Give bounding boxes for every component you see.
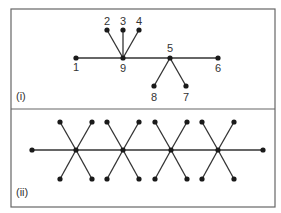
edge-h2-h2a — [107, 122, 123, 150]
node-1 — [73, 55, 78, 60]
node-7 — [183, 83, 188, 88]
panel-label: (ii) — [16, 186, 28, 198]
node-h2d — [136, 176, 141, 181]
edge-h2-h2d — [123, 150, 139, 179]
edge-5-7 — [170, 58, 186, 86]
node-4 — [136, 27, 141, 32]
node-h2 — [120, 147, 125, 152]
edge-h2-h2b — [123, 122, 139, 150]
node-2 — [104, 27, 109, 32]
node-label-1: 1 — [73, 61, 79, 73]
node-5 — [167, 55, 172, 60]
node-h1 — [73, 147, 78, 152]
panel-i-tree-graph: 123456789 (i) — [16, 15, 221, 103]
panel-label: (i) — [16, 90, 26, 102]
node-h2c — [104, 176, 109, 181]
edge-h3-h3b — [171, 122, 187, 150]
node-label-8: 8 — [151, 91, 157, 103]
edge-h1-h1b — [76, 122, 92, 150]
node-9 — [120, 55, 125, 60]
node-h3d — [184, 176, 189, 181]
node-L — [29, 147, 34, 152]
edge-h4-h4a — [202, 122, 218, 150]
node-labels: 123456789 — [73, 15, 221, 103]
node-h2b — [136, 119, 141, 124]
node-h1b — [89, 119, 94, 124]
edge-h4-h4d — [218, 150, 234, 179]
edge-h1-h1a — [60, 122, 76, 150]
figure-canvas: 123456789 (i) (ii) — [0, 0, 281, 213]
node-h3a — [152, 119, 157, 124]
node-label-6: 6 — [215, 62, 221, 74]
node-h4a — [199, 119, 204, 124]
edge-h2-h2c — [107, 150, 123, 179]
node-h1a — [57, 119, 62, 124]
edges — [76, 30, 218, 86]
edge-2-9 — [107, 30, 123, 58]
node-label-4: 4 — [136, 15, 142, 27]
node-h3 — [168, 147, 173, 152]
edge-h3-h3c — [155, 150, 171, 179]
edges — [32, 122, 263, 179]
node-h4b — [231, 119, 236, 124]
node-h1c — [57, 176, 62, 181]
node-R — [260, 147, 265, 152]
edge-h1-h1c — [60, 150, 76, 179]
edge-h1-h1d — [76, 150, 92, 179]
node-h2a — [104, 119, 109, 124]
node-label-2: 2 — [104, 15, 110, 27]
node-label-9: 9 — [120, 62, 126, 74]
node-label-7: 7 — [183, 91, 189, 103]
node-label-3: 3 — [120, 15, 126, 27]
node-label-5: 5 — [167, 42, 173, 54]
node-h3b — [184, 119, 189, 124]
edge-5-8 — [154, 58, 170, 86]
panel-ii-caterpillar-graph: (ii) — [16, 119, 266, 198]
edge-h3-h3a — [155, 122, 171, 150]
edge-h4-h4c — [202, 150, 218, 179]
node-6 — [215, 55, 220, 60]
node-3 — [120, 27, 125, 32]
node-8 — [151, 83, 156, 88]
graph-figure: 123456789 (i) (ii) — [0, 0, 281, 213]
node-h3c — [152, 176, 157, 181]
node-h4c — [199, 176, 204, 181]
node-h4 — [215, 147, 220, 152]
edge-4-9 — [123, 30, 139, 58]
node-h4d — [231, 176, 236, 181]
node-h1d — [89, 176, 94, 181]
edge-h4-h4b — [218, 122, 234, 150]
edge-h3-h3d — [171, 150, 187, 179]
